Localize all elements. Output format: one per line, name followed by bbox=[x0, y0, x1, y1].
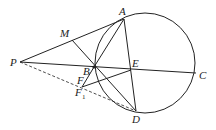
geometry-diagram: A M P B E C F F 1 D bbox=[0, 0, 216, 130]
segment-PC bbox=[20, 62, 196, 73]
label-A: A bbox=[118, 5, 126, 17]
label-F: F bbox=[76, 74, 84, 86]
label-B: B bbox=[83, 65, 90, 77]
label-E: E bbox=[131, 57, 139, 69]
label-D: D bbox=[131, 113, 140, 125]
diagram-canvas: A M P B E C F F 1 D bbox=[0, 0, 216, 130]
circle bbox=[95, 13, 195, 113]
segment-AB bbox=[94, 19, 124, 67]
label-F1-subscript: 1 bbox=[82, 93, 86, 101]
label-M: M bbox=[59, 27, 70, 39]
label-P: P bbox=[9, 56, 17, 68]
point-B bbox=[92, 65, 95, 68]
label-C: C bbox=[199, 69, 207, 81]
label-F1: F bbox=[74, 86, 82, 98]
